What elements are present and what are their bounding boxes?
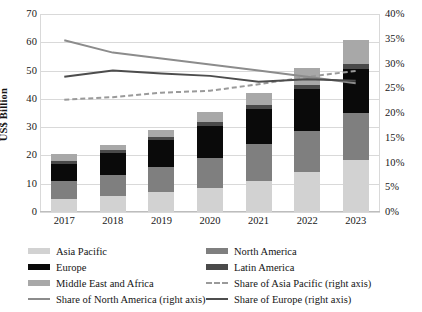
y2-axis-tick-label: 30% <box>385 59 419 69</box>
legend-label: Share of Europe (right axis) <box>234 294 351 305</box>
y2-axis-tick-label: 15% <box>385 133 419 143</box>
y2-axis-tick-label: 35% <box>385 34 419 44</box>
legend-label: Asia Pacific <box>56 246 107 257</box>
legend-item[interactable]: Europe <box>28 262 206 273</box>
legend-item[interactable]: Asia Pacific <box>28 246 206 257</box>
legend-swatch-icon <box>28 280 50 286</box>
legend-dashed-line-icon <box>206 282 228 284</box>
x-axis-tick-label: 2021 <box>236 215 282 226</box>
y-axis-tick-label: 20 <box>9 150 37 160</box>
legend-swatch-icon <box>206 248 228 254</box>
legend-label: North America <box>234 246 297 257</box>
x-axis-tick-label: 2022 <box>284 215 330 226</box>
legend: Asia PacificNorth AmericaEuropeLatin Ame… <box>28 243 398 307</box>
x-axis-tick-label: 2023 <box>333 215 379 226</box>
y-axis-tick-label: 60 <box>9 37 37 47</box>
y2-axis-tick-label: 40% <box>385 9 419 19</box>
x-axis-tick-label: 2019 <box>138 215 184 226</box>
legend-label: Share of North America (right axis) <box>56 294 206 305</box>
y2-axis-tick-label: 25% <box>385 83 419 93</box>
legend-item[interactable]: Share of Asia Pacific (right axis) <box>206 278 398 289</box>
legend-item[interactable]: Middle East and Africa <box>28 278 206 289</box>
chart-root: US$ Billion 010203040506070 0%5%10%15%20… <box>0 0 422 312</box>
plot-area <box>40 14 380 212</box>
y-axis-tick-label: 50 <box>9 66 37 76</box>
line-series-group <box>40 14 380 212</box>
y-axis-tick-label: 0 <box>9 207 37 217</box>
legend-line-icon <box>206 298 228 300</box>
y-axis-title: US$ Billion <box>0 88 9 141</box>
gridline <box>40 212 380 213</box>
legend-label: Middle East and Africa <box>56 278 154 289</box>
legend-item[interactable]: Share of Europe (right axis) <box>206 294 398 305</box>
legend-swatch-icon <box>206 264 228 270</box>
y2-axis-tick-label: 20% <box>385 108 419 118</box>
y2-axis-tick-label: 5% <box>385 182 419 192</box>
legend-label: Latin America <box>234 262 294 273</box>
y-axis-tick-label: 30 <box>9 122 37 132</box>
y2-axis-tick-label: 10% <box>385 158 419 168</box>
legend-item[interactable]: North America <box>206 246 398 257</box>
legend-label: Europe <box>56 262 86 273</box>
legend-item[interactable]: Latin America <box>206 262 398 273</box>
y2-axis-tick-label: 0% <box>385 207 419 217</box>
legend-swatch-icon <box>28 264 50 270</box>
legend-label: Share of Asia Pacific (right axis) <box>234 278 371 289</box>
x-axis-tick-label: 2018 <box>90 215 136 226</box>
y-axis-tick-label: 40 <box>9 94 37 104</box>
x-axis-tick-label: 2020 <box>187 215 233 226</box>
legend-item[interactable]: Share of North America (right axis) <box>28 294 206 305</box>
y-axis-tick-label: 70 <box>9 9 37 19</box>
legend-line-icon <box>28 298 50 300</box>
x-axis-tick-label: 2017 <box>41 215 87 226</box>
legend-swatch-icon <box>28 248 50 254</box>
y-axis-tick-label: 10 <box>9 179 37 189</box>
